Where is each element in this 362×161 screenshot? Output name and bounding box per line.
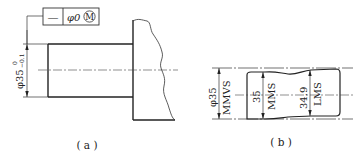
mmc-modifier: M (85, 12, 94, 22)
caption-b: ( b ) (270, 136, 292, 148)
upper-deviation: 0 (11, 61, 18, 65)
nominal-diameter: φ35 (14, 69, 25, 89)
mmvs-dimension: φ35 MMVS (207, 68, 232, 119)
leader-line (27, 16, 43, 44)
mmvs-value: φ35 (207, 87, 218, 107)
caption-a: ( a ) (76, 139, 97, 151)
lower-deviation: −0.1 (18, 53, 25, 68)
lms-value: 34.9 (298, 87, 309, 109)
mmvs-label: MMVS (221, 80, 232, 115)
figure-b: φ35 MMVS 35 MMS 34.9 (207, 68, 355, 148)
technical-drawing: — φ0 M φ35 0 −0.1 (0, 0, 362, 161)
diameter-dimension: φ35 0 −0.1 (11, 30, 29, 97)
straightness-symbol: — (48, 11, 59, 24)
figure-a: — φ0 M φ35 0 −0.1 (11, 8, 178, 151)
lms-dimension: 34.9 LMS (298, 70, 323, 116)
feature-control-frame: — φ0 M (43, 8, 99, 25)
mms-label: MMS (266, 83, 277, 110)
mms-value: 35 (251, 90, 262, 103)
tolerance-value: φ0 (67, 12, 81, 23)
lms-label: LMS (312, 82, 323, 106)
mms-dimension: 35 MMS (251, 72, 277, 119)
